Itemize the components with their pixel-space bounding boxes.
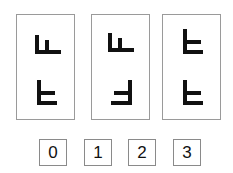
answer-option-3[interactable]: 3 xyxy=(173,139,201,166)
panel-2 xyxy=(91,14,150,120)
answer-option-2[interactable]: 2 xyxy=(128,139,156,166)
panel-3 xyxy=(162,14,221,120)
glyph-mirrored-e-shape-bottom-icon xyxy=(111,80,132,105)
glyph-rotated-top-icon xyxy=(35,35,61,54)
answer-option-1[interactable]: 1 xyxy=(84,139,112,166)
glyph-e-shape-bottom-icon xyxy=(183,80,203,105)
glyph-e-shape-bottom-icon xyxy=(37,80,57,105)
glyph-e-shape-top-icon xyxy=(183,29,203,54)
answer-option-0[interactable]: 0 xyxy=(39,139,67,166)
glyph-rotated-top-icon xyxy=(108,33,134,52)
panel-1 xyxy=(16,14,75,120)
